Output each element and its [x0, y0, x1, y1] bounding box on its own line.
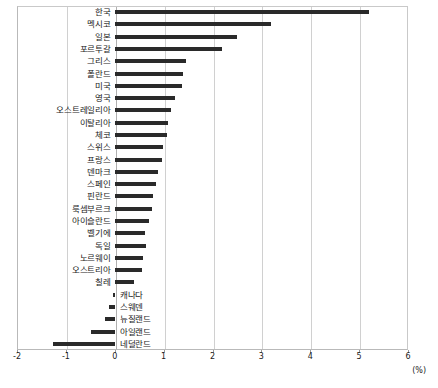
category-label: 한국	[95, 8, 111, 17]
bar-row: 아일랜드	[17, 325, 408, 337]
bar-row: 멕시코	[17, 18, 408, 30]
category-label: 노르웨이	[80, 254, 111, 263]
bar	[115, 158, 162, 162]
category-label: 폴란드	[87, 69, 110, 78]
category-label: 네덜란드	[120, 340, 151, 349]
bar-row: 스웨덴	[17, 301, 408, 313]
bar	[115, 170, 158, 174]
category-label: 이탈리아	[80, 118, 111, 127]
bar-row: 룩셈부르크	[17, 203, 408, 215]
bar	[115, 244, 146, 248]
category-label: 체코	[95, 131, 111, 140]
bar-row: 영국	[17, 92, 408, 104]
bar	[115, 35, 237, 39]
x-tick-label: 0	[112, 352, 117, 361]
category-label: 칠레	[95, 278, 111, 287]
bar	[115, 84, 182, 88]
bar	[115, 133, 167, 137]
x-tick-label: 4	[308, 352, 313, 361]
bar	[115, 207, 153, 211]
bar-row: 벨기에	[17, 227, 408, 239]
horizontal-bar-chart: 한국멕시코일본포르투갈그리스폴란드미국영국오스트레일리아이탈리아체코스위스프랑스…	[0, 0, 438, 388]
bar-row: 그리스	[17, 55, 408, 67]
category-label: 덴마크	[87, 168, 110, 177]
bar-row: 독일	[17, 239, 408, 251]
bar-row: 미국	[17, 80, 408, 92]
bar-row: 노르웨이	[17, 252, 408, 264]
category-label: 미국	[95, 82, 111, 91]
bar-row: 오스트레일리아	[17, 104, 408, 116]
bar-row: 칠레	[17, 276, 408, 288]
bar	[115, 59, 186, 63]
bar-row: 핀란드	[17, 190, 408, 202]
bar-row: 포르투갈	[17, 43, 408, 55]
category-label: 아이슬란드	[72, 217, 111, 226]
category-label: 스페인	[87, 180, 110, 189]
bar-row: 체코	[17, 129, 408, 141]
bar	[115, 194, 153, 198]
x-axis-unit-label: (%)	[412, 366, 426, 375]
category-label: 포르투갈	[80, 45, 111, 54]
category-label: 뉴질랜드	[120, 315, 151, 324]
bar-row: 이탈리아	[17, 117, 408, 129]
x-tick-label: 6	[405, 352, 410, 361]
bar	[115, 280, 135, 284]
x-tick-label: -1	[62, 352, 70, 361]
category-label: 오스트리아	[72, 266, 111, 275]
bar-row: 아이슬란드	[17, 215, 408, 227]
x-tick-label: -2	[13, 352, 21, 361]
category-label: 벨기에	[87, 229, 110, 238]
x-axis: -2-10123456	[17, 350, 408, 364]
bar	[115, 145, 163, 149]
bar	[105, 317, 115, 321]
bar	[115, 121, 168, 125]
bar	[115, 108, 171, 112]
category-label: 아일랜드	[120, 327, 151, 336]
category-label: 스위스	[87, 143, 110, 152]
bar	[115, 231, 145, 235]
category-label: 그리스	[87, 57, 110, 66]
bar-row: 일본	[17, 31, 408, 43]
category-label: 멕시코	[87, 20, 110, 29]
category-label: 오스트레일리아	[56, 106, 111, 115]
bar-rows: 한국멕시코일본포르투갈그리스폴란드미국영국오스트레일리아이탈리아체코스위스프랑스…	[17, 6, 408, 350]
bar	[109, 305, 114, 309]
category-label: 일본	[95, 32, 111, 41]
bar	[53, 342, 115, 346]
x-tick-label: 3	[259, 352, 264, 361]
bar	[115, 22, 271, 26]
category-label: 독일	[95, 241, 111, 250]
category-label: 스웨덴	[120, 303, 143, 312]
bar	[115, 268, 142, 272]
bar	[115, 72, 183, 76]
bar-row: 스위스	[17, 141, 408, 153]
bar	[91, 330, 115, 334]
bar	[115, 219, 149, 223]
bar-row: 폴란드	[17, 67, 408, 79]
category-label: 캐나다	[120, 290, 143, 299]
category-label: 핀란드	[87, 192, 110, 201]
bar	[115, 256, 143, 260]
bar	[115, 47, 223, 51]
bar-row: 프랑스	[17, 153, 408, 165]
bar-row: 스페인	[17, 178, 408, 190]
x-tick-label: 1	[161, 352, 166, 361]
bar	[113, 293, 115, 297]
bar-row: 뉴질랜드	[17, 313, 408, 325]
bar-row: 캐나다	[17, 289, 408, 301]
bar-row: 네덜란드	[17, 338, 408, 350]
x-tick-label: 5	[357, 352, 362, 361]
bar	[115, 182, 157, 186]
x-tick-label: 2	[210, 352, 215, 361]
bar-row: 오스트리아	[17, 264, 408, 276]
category-label: 룩셈부르크	[72, 204, 111, 213]
bar-row: 덴마크	[17, 166, 408, 178]
category-label: 영국	[95, 94, 111, 103]
bar	[115, 10, 369, 14]
bar	[115, 96, 175, 100]
bar-row: 한국	[17, 6, 408, 18]
category-label: 프랑스	[87, 155, 110, 164]
